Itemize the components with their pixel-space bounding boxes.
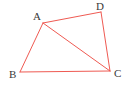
edge-AD [43, 12, 101, 23]
vertex-label-C: C [114, 68, 121, 79]
vertex-label-B: B [9, 69, 16, 80]
edge-DC [101, 12, 110, 71]
edge-CB [20, 71, 110, 72]
vertex-label-A: A [33, 11, 41, 22]
edge-AC-diagonal [43, 23, 110, 71]
vertex-label-D: D [96, 1, 104, 12]
edge-BA [20, 23, 43, 72]
geometry-figure: A B C D [0, 0, 135, 88]
